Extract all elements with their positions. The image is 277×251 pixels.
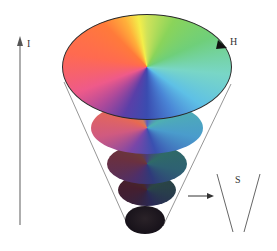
intensity-arrowhead-icon [17,36,23,46]
saturation-label: S [235,175,241,185]
intensity-axis [17,36,23,225]
hue-label: H [230,37,237,47]
saturation-pointer-arrow [188,193,214,199]
disc-bottom-black [125,206,165,234]
arrowhead-right-icon [207,193,214,199]
intensity-label: I [27,39,30,49]
hue-disc-top [62,14,232,120]
hsi-cone-diagram: I H S [0,0,277,251]
